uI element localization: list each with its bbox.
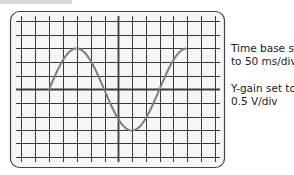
y-gain-line-2: 0.5 V/div bbox=[231, 95, 294, 108]
y-gain-line-1: Y-gain set to bbox=[231, 82, 294, 95]
time-base-line-2: to 50 ms/div bbox=[231, 55, 294, 68]
settings-labels: Time base set to 50 ms/div Y-gain set to… bbox=[231, 42, 294, 108]
time-base-label: Time base set to 50 ms/div bbox=[231, 42, 294, 68]
time-base-line-1: Time base set bbox=[231, 42, 294, 55]
y-gain-label: Y-gain set to 0.5 V/div bbox=[231, 82, 294, 108]
